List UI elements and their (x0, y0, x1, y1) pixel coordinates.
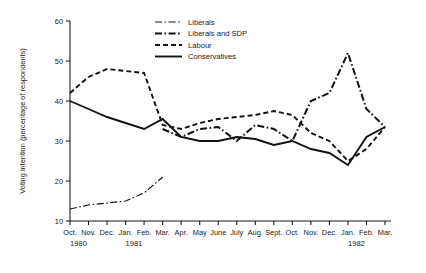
legend-label: Liberals and SDP (188, 29, 247, 38)
x-axis-tick-label: Dec. (99, 228, 114, 237)
x-axis-year-label: 1982 (348, 239, 365, 248)
x-axis-tick-label: May (193, 228, 207, 237)
y-axis-tick-label: 20 (55, 177, 63, 186)
y-axis-tick-label: 10 (55, 217, 63, 226)
x-axis-tick-label: Apr. (175, 228, 188, 237)
y-axis-tick-label: 60 (55, 17, 63, 26)
x-axis-tick-label: Feb. (137, 228, 152, 237)
x-axis-tick-label: Dec. (322, 228, 337, 237)
x-axis-tick-label: Jan. (341, 228, 355, 237)
legend-item: Labour (155, 41, 212, 50)
x-axis-tick-label: Sept. (265, 228, 282, 237)
x-axis-tick-label: Jan. (119, 228, 133, 237)
voting-intention-line-chart: 102030405060Voting intention (percentage… (0, 0, 426, 273)
legend-label: Labour (188, 41, 212, 50)
x-axis-tick-label: Nov. (304, 228, 319, 237)
legend-item: Conservatives (155, 52, 236, 61)
y-axis-tick-label: 40 (55, 97, 63, 106)
x-axis-tick-label: Mar. (378, 228, 392, 237)
legend-label: Liberals (188, 18, 215, 27)
x-axis-tick-label: Nov. (81, 228, 96, 237)
x-axis-year-label: 1980 (70, 239, 87, 248)
x-axis-tick-label: Oct. (63, 228, 77, 237)
x-axis-tick-label: Aug. (248, 228, 263, 237)
y-axis-tick-label: 30 (55, 137, 63, 146)
series-line-liberals (70, 177, 163, 209)
x-axis-tick-label: Feb. (359, 228, 374, 237)
chart-container: 102030405060Voting intention (percentage… (0, 0, 426, 273)
y-axis-tick-label: 50 (55, 57, 63, 66)
series-line-labour (70, 69, 385, 161)
series-line-liberals-and-sdp (163, 53, 385, 141)
legend-item: Liberals and SDP (155, 29, 247, 38)
x-axis-tick-label: Oct. (286, 228, 300, 237)
legend-item: Liberals (155, 18, 215, 27)
x-axis-tick-label: June (210, 228, 226, 237)
x-axis-year-label: 1981 (126, 239, 143, 248)
legend-label: Conservatives (188, 52, 236, 61)
y-axis-title: Voting intention (percentage of responde… (18, 48, 27, 193)
x-axis-tick-label: July (230, 228, 243, 237)
x-axis-tick-label: Mar. (155, 228, 169, 237)
